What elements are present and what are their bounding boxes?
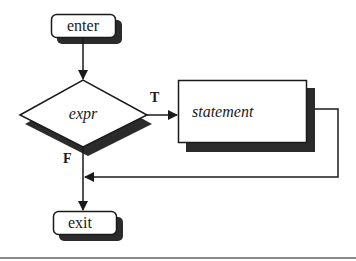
statement-node: statement — [179, 81, 316, 153]
expr-node: expr — [20, 80, 152, 156]
flowchart-canvas: enter expr T statement F exit — [0, 0, 356, 261]
false-edge-label: F — [63, 151, 72, 166]
statement-node-label: statement — [192, 103, 254, 120]
enter-node: enter — [52, 15, 123, 45]
true-edge-label: T — [150, 90, 160, 105]
expr-node-label: expr — [69, 105, 98, 123]
exit-node-label: exit — [68, 214, 93, 231]
enter-node-label: enter — [67, 17, 100, 34]
exit-node: exit — [54, 212, 124, 242]
